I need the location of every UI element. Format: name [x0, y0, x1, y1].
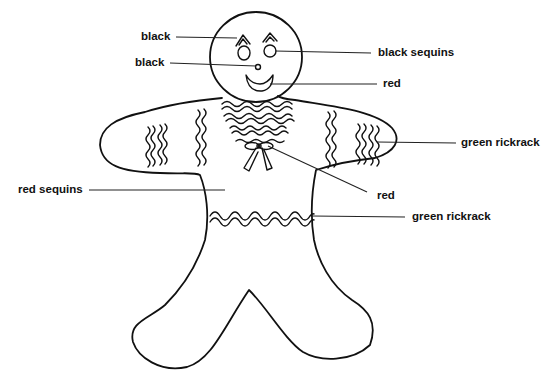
label-arm-trim: green rickrack	[461, 137, 540, 149]
right-eye-icon	[264, 45, 276, 57]
left-eye-icon	[238, 46, 250, 60]
label-buttons: red sequins	[18, 184, 83, 196]
right-eyebrow-icon	[263, 33, 277, 42]
label-eyebrows: black	[141, 31, 170, 43]
left-eyebrow-icon	[236, 35, 250, 46]
gingerbread-drawing	[0, 0, 554, 390]
head	[210, 12, 302, 102]
gingerbread-diagram: black black black sequins red green rick…	[0, 0, 554, 390]
label-mouth: red	[383, 78, 401, 90]
label-eyes: black sequins	[378, 47, 454, 59]
left-sleeve-rickrack	[146, 109, 206, 167]
label-bow: red	[377, 190, 395, 202]
body-outline	[100, 96, 397, 368]
nose-icon	[256, 65, 261, 70]
right-sleeve-rickrack	[326, 111, 379, 168]
waist-rickrack	[210, 212, 314, 226]
label-waist-trim: green rickrack	[412, 211, 491, 223]
label-nose: black	[135, 57, 164, 69]
collar-rickrack	[222, 102, 294, 143]
mouth-icon	[246, 75, 273, 91]
